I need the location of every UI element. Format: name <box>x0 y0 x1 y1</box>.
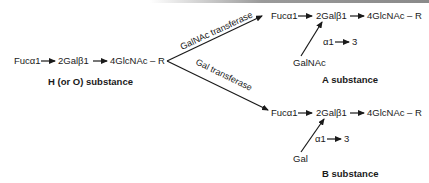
h-fuc: Fucα1 <box>14 55 41 66</box>
abo-biosynthesis-diagram: Fucα1 2Galβ1 4GlcNAc – R H (or O) substa… <box>0 0 429 183</box>
a-glc: 4GlcNAc – R <box>367 10 422 21</box>
a-gal: 2Galβ1 <box>316 10 347 21</box>
a-fuc: Fucα1 <box>271 10 298 21</box>
a-added-sugar: GalNAc <box>293 57 326 68</box>
a-substance-chain: Fucα1 2Galβ1 4GlcNAc – R α1 3 GalNAc A s… <box>271 10 422 85</box>
h-substance-chain: Fucα1 2Galβ1 4GlcNAc – R H (or O) substa… <box>14 55 165 87</box>
b-fuc: Fucα1 <box>271 107 298 118</box>
b-linkage-pos: 3 <box>344 133 349 144</box>
b-substance-label: B substance <box>322 168 379 179</box>
a-substance-label: A substance <box>322 74 378 85</box>
gal-transferase-label: Gal transferase <box>194 57 254 93</box>
galnac-transferase-arrow <box>167 16 262 61</box>
b-linkage-alpha: α1 <box>315 133 326 144</box>
b-gal: 2Galβ1 <box>316 107 347 118</box>
b-glc: 4GlcNAc – R <box>367 107 422 118</box>
h-substance-label: H (or O) substance <box>48 76 133 87</box>
a-linkage-pos: 3 <box>352 36 357 47</box>
h-glc: 4GlcNAc – R <box>110 55 165 66</box>
a-linkage-arrow <box>301 22 322 56</box>
b-substance-chain: Fucα1 2Galβ1 4GlcNAc – R α1 3 Gal B subs… <box>271 107 422 179</box>
h-gal: 2Galβ1 <box>58 55 89 66</box>
galnac-transferase-label: GalNAc transferase <box>179 10 254 52</box>
a-linkage-alpha: α1 <box>323 36 334 47</box>
b-added-sugar: Gal <box>293 153 308 164</box>
